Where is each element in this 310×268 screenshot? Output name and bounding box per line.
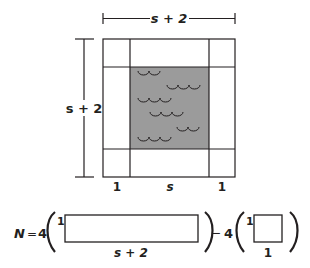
rect-top-label: 1: [57, 215, 65, 228]
square-bottom-label: 1: [264, 246, 272, 260]
equation-coef2: 4: [224, 226, 233, 241]
square-top-label: 1: [246, 215, 254, 228]
equation-coef1: 4: [38, 226, 47, 241]
bottom-label-left: 1: [113, 180, 121, 194]
open-paren-1: [48, 212, 56, 252]
equation: N = 4 1 s + 2 − 4 1 1: [14, 212, 298, 260]
close-paren-2: [290, 212, 298, 252]
small-square: [254, 215, 282, 242]
equation-equals: =: [27, 227, 37, 241]
left-dimension-label: s + 2: [66, 101, 103, 116]
top-dimension-label: s + 2: [151, 11, 188, 26]
bottom-label-right: 1: [218, 180, 226, 194]
pool-area: [130, 67, 209, 149]
pool-border-diagram: s + 2 s + 2 1 s 1 N = 4 1 s + 2: [0, 0, 310, 268]
open-paren-2: [237, 212, 245, 252]
equation-lhs: N: [14, 226, 25, 241]
bottom-label-middle: s: [166, 180, 173, 194]
rect-bottom-label: s + 2: [114, 246, 148, 260]
equation-minus: −: [211, 226, 221, 240]
long-rectangle: [65, 215, 198, 242]
